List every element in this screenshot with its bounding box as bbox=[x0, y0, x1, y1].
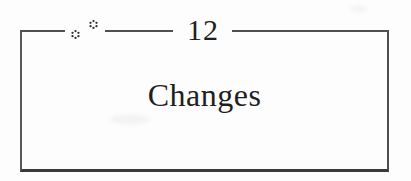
scan-smudge bbox=[350, 6, 368, 12]
top-rule-right-segment bbox=[232, 30, 389, 32]
dotted-florette-icon bbox=[70, 29, 81, 40]
top-rule-left-segment bbox=[21, 30, 65, 32]
scanned-page: 12 Changes bbox=[0, 0, 411, 181]
chapter-title: Changes bbox=[20, 79, 389, 111]
scan-smudge bbox=[110, 115, 150, 124]
chapter-number: 12 bbox=[173, 14, 233, 46]
dotted-florette-icon bbox=[88, 19, 99, 30]
top-rule-mid-segment bbox=[105, 30, 173, 32]
